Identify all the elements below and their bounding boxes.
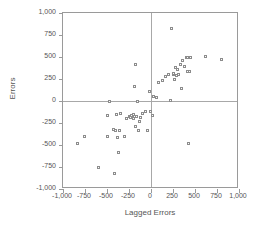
data-point [180,87,183,90]
data-point [139,116,142,119]
data-point [169,99,172,102]
y-axis-tick-label: -1,000 [36,184,56,192]
y-axis-tick [59,145,63,146]
y-axis-tick-label: 1,000 [38,8,56,16]
data-point [204,55,207,58]
data-point [155,96,158,99]
scatter-chart: Errors -1,000-750-500-25002505007501,000… [0,0,257,229]
data-point [97,166,100,169]
data-point [119,112,122,115]
x-axis-tick-label: 0 [148,192,152,200]
y-axis-tick-label: 250 [44,74,56,82]
x-axis-tick-label: -750 [77,192,91,200]
data-point [173,78,176,81]
x-axis-tick-label: 250 [166,192,178,200]
plot-surface [63,13,237,187]
data-point [144,110,147,113]
data-point [123,135,126,138]
data-point [189,56,192,59]
data-point [179,63,182,66]
y-axis-tick [59,167,63,168]
data-point [151,114,154,117]
data-point [181,59,184,62]
data-point [137,129,140,132]
y-axis-tick-label: 750 [44,30,56,38]
x-axis-tick-labels: -1,000-750-500-25002505007501,000 [62,192,238,204]
y-axis-tick-label: -750 [42,162,56,170]
x-axis-tick-label: 500 [188,192,200,200]
y-axis-tick [59,79,63,80]
data-point [176,68,179,71]
y-axis-tick [59,57,63,58]
x-axis-tick-label: -500 [99,192,113,200]
data-point [170,27,173,30]
data-point [76,142,79,145]
data-point [117,151,120,154]
plot-area [62,12,238,188]
x-axis-tick-label: -1,000 [52,192,72,200]
x-axis-tick-label: 750 [210,192,222,200]
data-point [116,136,119,139]
x-axis-tick-label: 1,000 [229,192,247,200]
y-axis-tick-label: 0 [52,96,56,104]
data-point [108,100,111,103]
data-point [146,129,149,132]
y-axis-tick-label: 500 [44,52,56,60]
y-axis-tick-label: -500 [42,140,56,148]
data-point [188,70,191,73]
data-point [134,63,137,66]
data-point [177,73,180,76]
y-axis-tick [59,101,63,102]
y-axis-tick [59,35,63,36]
y-axis-tick-label: -250 [42,118,56,126]
x-axis-title: Lagged Errors [62,208,238,217]
data-point [220,58,223,61]
data-point [187,142,190,145]
data-point [183,65,186,68]
y-axis-tick [59,123,63,124]
data-point [138,120,141,123]
data-point [161,79,164,82]
data-point [167,73,170,76]
data-point [133,85,136,88]
x-axis-tick-label: -250 [121,192,135,200]
data-point [118,129,121,132]
data-point [136,100,139,103]
vertical-zero-reference-line [151,13,152,187]
y-axis-tick-labels: -1,000-750-500-25002505007501,000 [0,12,56,188]
y-axis-tick [59,13,63,14]
data-point [106,135,109,138]
horizontal-zero-reference-line [63,101,237,102]
data-point [148,90,151,93]
data-point [106,114,109,117]
data-point [157,81,160,84]
data-point [113,172,116,175]
data-point [83,135,86,138]
